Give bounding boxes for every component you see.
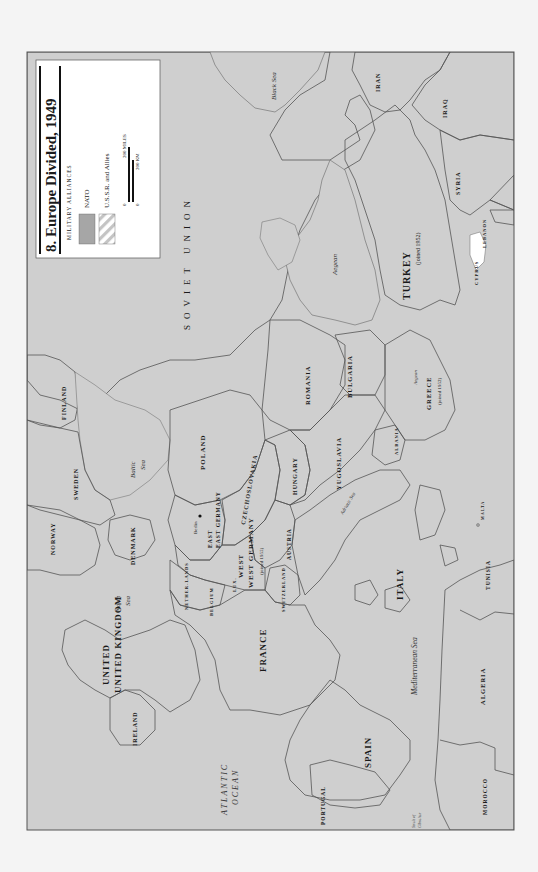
- label-lebanon: LEBANON: [482, 219, 487, 248]
- map-title: 8. Europe Divided, 1949: [43, 99, 59, 253]
- label-west-germany: WEST GERMANY: [247, 517, 255, 588]
- label-italy: ITALY: [395, 568, 405, 600]
- label-belgium: BELGIUM: [209, 587, 214, 616]
- legend-label-ussr: U.S.S.R. and Allies: [103, 153, 111, 208]
- label-morocco: MOROCCO: [482, 778, 488, 815]
- label-sweden: SWEDEN: [73, 468, 79, 500]
- label-strait-of-gibraltar: Strait of: [411, 814, 416, 828]
- label-mediterranean-sea: Mediterranean Sea: [410, 637, 419, 696]
- legend-heading: MILITARY ALLIANCES: [66, 164, 72, 240]
- label-greece-note: (joined 1952): [437, 378, 442, 405]
- label-poland: POLAND: [199, 434, 207, 470]
- label-romania: ROMANIA: [304, 366, 311, 406]
- label-black-sea: Aegean: [331, 254, 339, 276]
- label-united-kingdom-1: UNITED: [101, 644, 111, 685]
- label-baltic-sea-2: Sea: [139, 459, 147, 470]
- legend-label-nato: NATO: [83, 189, 91, 208]
- label-france: FRANCE: [258, 629, 268, 673]
- legend: 8. Europe Divided, 1949 MILITARY ALLIANC…: [36, 60, 160, 258]
- svg-text:200 MILES: 200 MILES: [122, 134, 127, 158]
- label-west-germany-note: (joined 1955): [259, 548, 264, 575]
- label-albania: ALBANIA: [394, 427, 399, 455]
- europe-divided-map: 8. Europe Divided, 1949 MILITARY ALLIANC…: [0, 0, 538, 872]
- label-soviet-union: SOVIET UNION: [182, 195, 192, 330]
- berlin-dot: [198, 514, 201, 517]
- label-turkey-note: (joined 1952): [415, 233, 422, 266]
- label-finland: FINLAND: [61, 386, 67, 420]
- label-atlantic-ocean-2: OCEAN: [231, 769, 240, 805]
- label-cyprus: CYPRUS: [474, 261, 479, 285]
- label-north-sea: North: [114, 595, 122, 613]
- label-aegean-sea: Aegean: [413, 370, 418, 386]
- label-yugoslavia: YUGOSLAVIA: [335, 437, 342, 490]
- label-tunisia: TUNISIA: [485, 560, 491, 590]
- label-greece: GREECE: [425, 377, 432, 410]
- label-strait-of-gibraltar-2: Gibraltar: [417, 812, 422, 828]
- label-iran: IRAN: [375, 73, 381, 92]
- label-caspian-sea: Black Sea: [270, 72, 278, 100]
- label-ireland: IRELAND: [132, 711, 138, 746]
- label-east-germany-1: EAST: [207, 530, 213, 548]
- label-portugal: PORTUGAL: [320, 786, 326, 825]
- label-hungary: HUNGARY: [292, 457, 298, 495]
- label-netherlands: NETHER-LANDS: [184, 562, 189, 610]
- label-berlin: Berlin: [193, 521, 198, 534]
- label-syria: SYRIA: [455, 171, 461, 195]
- label-denmark: DENMARK: [130, 526, 136, 565]
- label-bulgaria: BULGARIA: [346, 355, 353, 398]
- label-north-sea-2: Sea: [124, 595, 132, 606]
- label-switzerland: SWITZERLAND: [281, 567, 286, 612]
- label-austria: AUSTRIA: [286, 528, 292, 560]
- label-norway: NORWAY: [50, 522, 56, 555]
- label-algeria: ALGERIA: [479, 668, 486, 705]
- label-atlantic-ocean: ATLANTIC: [220, 763, 229, 816]
- label-baltic-sea: Baltic: [129, 460, 137, 478]
- svg-text:200 KM: 200 KM: [135, 153, 140, 170]
- label-malta: MALTA: [480, 501, 485, 520]
- legend-swatch-ussr: [99, 214, 115, 244]
- label-iraq: IRAQ: [442, 98, 448, 118]
- label-east-germany: EAST GERMANY: [215, 491, 221, 548]
- label-turkey: TURKEY: [401, 251, 412, 300]
- label-spain: SPAIN: [363, 737, 373, 768]
- label-west-germany-1: WEST: [237, 554, 245, 578]
- label-lux: LUX.: [232, 577, 237, 592]
- legend-swatch-nato: [79, 214, 95, 244]
